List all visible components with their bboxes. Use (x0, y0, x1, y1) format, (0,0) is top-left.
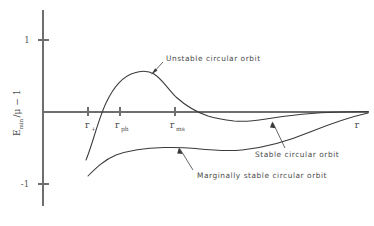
annotation-unstable-text: Unstable circular orbit (166, 54, 261, 63)
annotation-marginally-stable-arrowhead (177, 147, 183, 154)
curve-marginally-stable-circular-orbit (88, 113, 368, 176)
y-axis-label: E min /μ − 1 (12, 90, 24, 136)
annotation-marginally-stable-text: Marginally stable circular orbit (197, 171, 327, 180)
x-tick-label-r-ph: r ph (115, 120, 129, 133)
x-tick-label-r-ms: r ms (170, 120, 185, 132)
annotation-marginally-stable-leader (180, 149, 193, 170)
annotation-stable-arrowhead (270, 121, 276, 128)
x-tick-label-r-plus: r + (85, 120, 96, 132)
curve-unstable-circular-orbit (86, 71, 368, 160)
x-axis-label: r (355, 120, 360, 130)
y-tick-label-negative-one: -1 (21, 179, 29, 189)
orbit-energy-figure: 1 -1 r + r ph r ms r E min (0, 0, 374, 226)
x-tick-label-r-plus-base: r (85, 120, 90, 130)
x-tick-label-r-ph-base: r (115, 120, 120, 130)
y-axis-label-min-sub: min (18, 118, 24, 129)
annotation-stable-circular-orbit: Stable circular orbit (255, 121, 339, 159)
annotation-stable-text: Stable circular orbit (255, 150, 339, 159)
x-tick-label-r-ms-sub: ms (176, 125, 185, 132)
curves-group (86, 71, 368, 176)
y-axis-label-rest: /μ − 1 (12, 90, 22, 118)
x-tick-label-r-ph-sub: ph (121, 125, 129, 133)
x-tick-label-r-ms-base: r (170, 120, 175, 130)
chart-canvas: 1 -1 r + r ph r ms r E min (0, 0, 374, 226)
annotation-unstable-circular-orbit: Unstable circular orbit (151, 54, 260, 75)
y-tick-label-positive-one: 1 (24, 35, 29, 45)
